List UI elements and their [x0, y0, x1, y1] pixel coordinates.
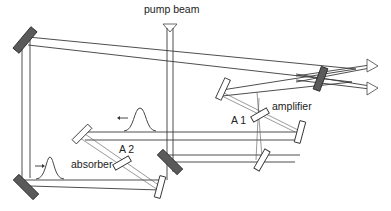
flat-mirror-bottom-left-icon: [13, 174, 38, 199]
flat-mirror-top-left-icon: [13, 27, 37, 54]
pulse-right-moving: [35, 157, 64, 179]
a1-label: A 1: [231, 114, 246, 126]
amplifier-jet-icon: [251, 108, 270, 122]
pulse-left-moving: [117, 108, 156, 131]
curved-mirror-abs-left-icon: [72, 124, 92, 144]
output-arrow-upper-icon: [367, 59, 378, 72]
output-arrow-lower-icon: [367, 82, 378, 95]
pump-arrow-icon: [163, 24, 177, 32]
arrow-right-icon: [42, 164, 45, 168]
pump-beam-label: pump beam: [144, 3, 200, 15]
curved-mirror-abs-right-icon: [154, 176, 165, 199]
absorber-label: absorber: [71, 158, 113, 170]
cpm-laser-diagram: pump beam: [0, 0, 391, 211]
absorber-jet-icon: [113, 156, 132, 170]
arrow-left-icon: [117, 116, 120, 120]
pump-beam: pump beam: [144, 3, 200, 180]
absorber-arm-beams: [80, 132, 300, 190]
amplifier-label: amplifier: [272, 100, 312, 112]
a2-label: A 2: [119, 143, 134, 155]
